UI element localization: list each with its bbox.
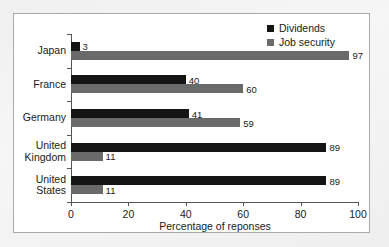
bar-job-security-germany xyxy=(71,118,240,127)
bar-value-label: 60 xyxy=(246,85,257,94)
legend-item-dividends: Dividends xyxy=(267,22,335,34)
bar-job-security-united-kingdom xyxy=(71,152,103,161)
x-axis-tick xyxy=(186,202,187,206)
category-label-japan: Japan xyxy=(37,45,66,57)
bar-value-label: 11 xyxy=(106,152,116,161)
bar-dividends-germany xyxy=(71,109,189,118)
x-axis-tick-label: 20 xyxy=(123,208,135,220)
x-axis-tick-label: 80 xyxy=(295,208,307,220)
bar-value-label: 11 xyxy=(106,186,116,195)
x-axis-line xyxy=(71,202,359,203)
x-axis-tick xyxy=(301,202,302,206)
chart-legend: Dividends Job security xyxy=(267,22,335,50)
bar-value-label: 89 xyxy=(329,143,340,152)
category-axis-labels: JapanFranceGermanyUnitedKingdomUnitedSta… xyxy=(14,34,66,202)
figure-root: JapanFranceGermanyUnitedKingdomUnitedSta… xyxy=(0,0,389,247)
x-axis-title: Percentage of reponses xyxy=(71,220,359,232)
legend-label-dividends: Dividends xyxy=(279,22,325,34)
category-label-united-kingdom: UnitedKingdom xyxy=(25,140,66,163)
x-axis-tick-label: 0 xyxy=(68,208,74,220)
x-axis-tick-label: 40 xyxy=(180,208,192,220)
legend-label-job-security: Job security xyxy=(279,36,335,48)
bar-dividends-japan xyxy=(71,42,80,51)
chart-frame: JapanFranceGermanyUnitedKingdomUnitedSta… xyxy=(13,13,370,233)
category-label-united-states: UnitedStates xyxy=(36,174,66,197)
x-axis-tick xyxy=(243,202,244,206)
bar-value-label: 59 xyxy=(243,119,254,128)
bar-dividends-united-states xyxy=(71,176,326,185)
bar-job-security-united-states xyxy=(71,185,103,194)
legend-item-job-security: Job security xyxy=(267,36,335,48)
x-axis-tick-label: 100 xyxy=(349,208,367,220)
bar-job-security-japan xyxy=(71,51,349,60)
category-label-france: France xyxy=(33,79,66,91)
x-axis-tick-label: 60 xyxy=(237,208,249,220)
bar-dividends-france xyxy=(71,75,186,84)
legend-swatch-icon-dividends xyxy=(267,25,274,32)
legend-swatch-icon-job-security xyxy=(267,39,274,46)
plot-area: 3974060415989118911 xyxy=(71,34,358,202)
x-axis-tick xyxy=(128,202,129,206)
category-label-germany: Germany xyxy=(23,112,66,124)
bar-value-label: 89 xyxy=(329,177,340,186)
bar-job-security-france xyxy=(71,84,243,93)
bar-value-label: 97 xyxy=(352,51,363,60)
x-axis-tick xyxy=(358,202,359,206)
x-axis-tick xyxy=(71,202,72,206)
